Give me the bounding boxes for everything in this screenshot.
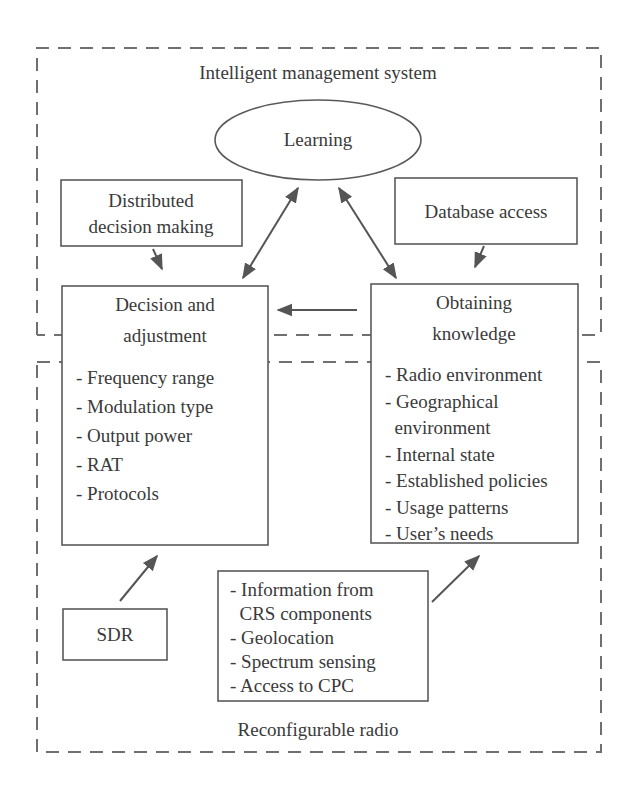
decision-item: - Frequency range [76, 367, 214, 388]
information-sources-node: - Information from CRS components - Geol… [218, 571, 428, 701]
sources-item: - Spectrum sensing [230, 651, 376, 672]
obtaining-knowledge-node: Obtaining knowledge - Radio environment … [371, 284, 578, 544]
learning-label: Learning [284, 129, 353, 150]
decision-title-line-1: Decision and [115, 294, 215, 315]
decision-adjustment-node: Decision and adjustment - Frequency rang… [62, 286, 268, 545]
region-label-upper: Intelligent management system [199, 62, 437, 83]
arrow-distributed-decision [153, 249, 162, 269]
decision-item: - RAT [76, 454, 123, 475]
sdr-label: SDR [97, 624, 134, 645]
knowledge-item: - Geographical [385, 391, 498, 412]
sources-item: - Access to CPC [230, 675, 354, 696]
knowledge-item: - Radio environment [385, 364, 543, 385]
sources-item: CRS components [230, 603, 372, 624]
knowledge-title-line-1: Obtaining [436, 292, 512, 313]
decision-item: - Output power [76, 425, 193, 446]
diagram-canvas: Intelligent management system Reconfigur… [0, 0, 634, 791]
knowledge-item: - Established policies [385, 470, 548, 491]
knowledge-item: - User’s needs [385, 523, 493, 544]
knowledge-item: - Internal state [385, 444, 495, 465]
decision-title-line-2: adjustment [123, 325, 207, 346]
sources-item: - Information from [230, 579, 374, 600]
arrow-database-knowledge [475, 246, 484, 267]
region-label-lower: Reconfigurable radio [238, 719, 399, 740]
knowledge-title-line-2: knowledge [432, 323, 515, 344]
arrow-sources-knowledge [432, 556, 479, 602]
decision-item: - Modulation type [76, 396, 213, 417]
knowledge-item: - Usage patterns [385, 497, 508, 518]
database-label: Database access [425, 201, 548, 222]
sdr-node: SDR [63, 609, 167, 660]
sources-item: - Geolocation [230, 627, 334, 648]
learning-node: Learning [215, 100, 421, 180]
arrow-learning-knowledge [339, 188, 396, 278]
arrow-sdr-decision [120, 556, 157, 601]
knowledge-item: environment [385, 417, 491, 438]
distributed-decision-making-node: Distributed decision making [61, 180, 242, 246]
distributed-label-line-2: decision making [88, 216, 214, 237]
database-access-node: Database access [395, 178, 577, 244]
decision-item: - Protocols [76, 483, 159, 504]
arrow-learning-decision [243, 188, 298, 278]
distributed-label-line-1: Distributed [108, 190, 194, 211]
